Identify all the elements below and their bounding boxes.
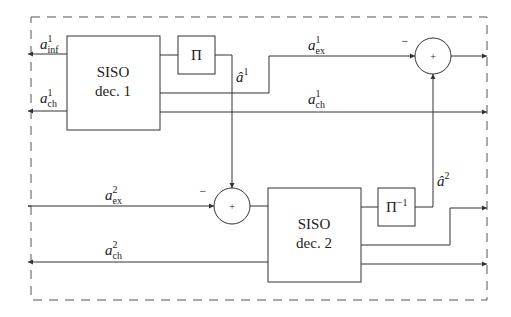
sum-bottom-plus: +: [229, 201, 235, 212]
dec2-label-line1: SISO: [298, 216, 331, 232]
label-a-inf-1: a1inf: [40, 33, 59, 55]
siso-decoder-1-block: SISO dec. 1: [67, 36, 160, 130]
interleaver-label: Π: [191, 47, 202, 63]
sum-node-bottom: + −: [200, 184, 250, 224]
label-a-ch-1-in: a1ch: [40, 87, 57, 109]
label-a-ch-1-out: a1ch: [308, 88, 325, 110]
label-a-ch-2: a2ch: [105, 239, 122, 261]
label-a-hat-1: â1: [236, 66, 249, 85]
wire-a-hat-2: [415, 74, 433, 207]
turbo-decoder-diagram: SISO dec. 1 Π SISO dec. 2 Π−1 + − + −: [0, 0, 511, 317]
sum-top-plus: +: [430, 51, 436, 62]
label-a-hat-2: â2: [437, 170, 450, 189]
sum-top-minus: −: [402, 34, 409, 48]
label-a-ex-1: a1ex: [308, 34, 325, 56]
interleaver-block: Π: [178, 36, 215, 74]
dec1-label-line1: SISO: [97, 64, 130, 80]
siso-decoder-2-block: SISO dec. 2: [268, 188, 361, 282]
sum-node-top: + −: [402, 34, 451, 74]
sum-bottom-minus: −: [200, 184, 207, 198]
dec1-label-line2: dec. 1: [95, 83, 131, 99]
dec2-label-line2: dec. 2: [296, 235, 332, 251]
wire-a-hat-1: [215, 55, 232, 188]
deinterleaver-block: Π−1: [378, 188, 415, 226]
label-a-ex-2: a2ex: [105, 184, 122, 206]
